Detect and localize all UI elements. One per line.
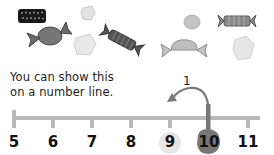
jump-arrow bbox=[173, 88, 208, 104]
start-marker bbox=[206, 104, 211, 134]
number-label-10: 10 bbox=[197, 133, 221, 151]
number-label-5: 5 bbox=[2, 133, 26, 151]
number-line bbox=[0, 0, 274, 155]
number-line-bar bbox=[13, 116, 260, 120]
number-label-9: 9 bbox=[158, 133, 182, 151]
number-label-7: 7 bbox=[80, 133, 104, 151]
number-label-11: 11 bbox=[236, 133, 260, 151]
number-label-6: 6 bbox=[41, 133, 65, 151]
jump-label: 1 bbox=[183, 74, 191, 88]
number-label-8: 8 bbox=[119, 133, 143, 151]
